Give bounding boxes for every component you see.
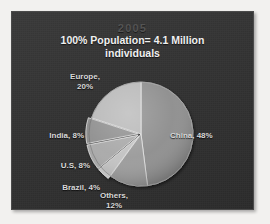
pie-label-europe-line1: Europe,	[70, 72, 100, 81]
pie-label-others-line1: Others,	[100, 191, 128, 200]
pie-label-others: Others, 12%	[91, 191, 137, 210]
pie-chart-svg	[12, 12, 253, 209]
pie-label-others-line2: 12%	[106, 201, 122, 210]
pie-chart	[12, 12, 253, 209]
chart-panel: 2005 100% Population= 4.1 Million indivi…	[11, 11, 254, 210]
pie-label-china: China, 48%	[170, 131, 246, 141]
pie-label-europe-line2: 20%	[77, 82, 93, 91]
pie-label-europe: Europe, 20%	[62, 72, 108, 92]
figure-canvas: 2005 100% Population= 4.1 Million indivi…	[0, 0, 270, 224]
pie-label-india: India, 8%	[26, 131, 84, 141]
pie-label-us: U.S, 8%	[32, 161, 90, 171]
